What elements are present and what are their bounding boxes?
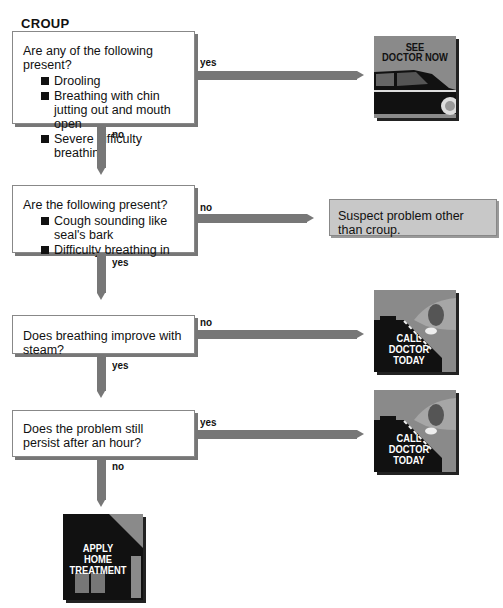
branch-label-yes: yes xyxy=(200,56,217,68)
branch-label-yes: yes xyxy=(112,256,129,268)
branch-label-no: no xyxy=(112,128,124,140)
bullet-item: Cough sounding like seal's bark xyxy=(41,214,184,242)
see-doctor-now-card: SEE DOCTOR NOW xyxy=(374,36,456,118)
card-text: TREATMENT xyxy=(63,565,136,576)
question-text: Are the following present? xyxy=(23,198,184,212)
question-box-4: Does the problem still persist after an … xyxy=(12,410,195,457)
connector-yes-arrow xyxy=(97,356,106,391)
car-icon xyxy=(374,66,456,118)
bullet-item: Difficulty breathing in xyxy=(41,243,184,257)
card-text: TODAY xyxy=(374,455,449,466)
connector-no-arrow xyxy=(97,124,106,168)
diagram-title: CROUP xyxy=(21,16,69,31)
connector-no-arrow xyxy=(197,214,307,223)
result-other-problem: Suspect problem other than croup. xyxy=(329,199,497,236)
apply-home-treatment-card: APPLY HOME TREATMENT xyxy=(63,514,143,600)
question-box-2: Are the following present? Cough soundin… xyxy=(12,185,195,253)
connector-no-arrow xyxy=(197,330,357,339)
branch-label-no: no xyxy=(200,316,212,328)
connector-yes-arrow xyxy=(197,71,357,80)
card-text: TODAY xyxy=(374,355,449,366)
branch-label-no: no xyxy=(200,201,212,213)
branch-label-yes: yes xyxy=(112,359,129,371)
question-text: Are any of the following present? xyxy=(23,44,184,72)
call-doctor-today-card-1: CALL DOCTOR TODAY xyxy=(374,290,456,372)
connector-yes-arrow xyxy=(97,253,106,293)
question-box-3: Does breathing improve with steam? xyxy=(12,315,195,354)
connector-no-arrow xyxy=(97,457,106,500)
question-text: Does breathing improve with steam? xyxy=(23,329,184,357)
question-text: Does the problem still persist after an … xyxy=(23,422,153,450)
question-box-1: Are any of the following present? Drooli… xyxy=(12,31,195,124)
bullet-item: Breathing with chin jutting out and mout… xyxy=(41,89,184,131)
branch-label-no: no xyxy=(112,460,124,472)
call-doctor-today-card-2: CALL DOCTOR TODAY xyxy=(374,390,456,472)
connector-yes-arrow xyxy=(197,430,357,439)
card-text: DOCTOR NOW xyxy=(380,52,450,63)
branch-label-yes: yes xyxy=(200,416,217,428)
bullet-item: Drooling xyxy=(41,74,184,88)
